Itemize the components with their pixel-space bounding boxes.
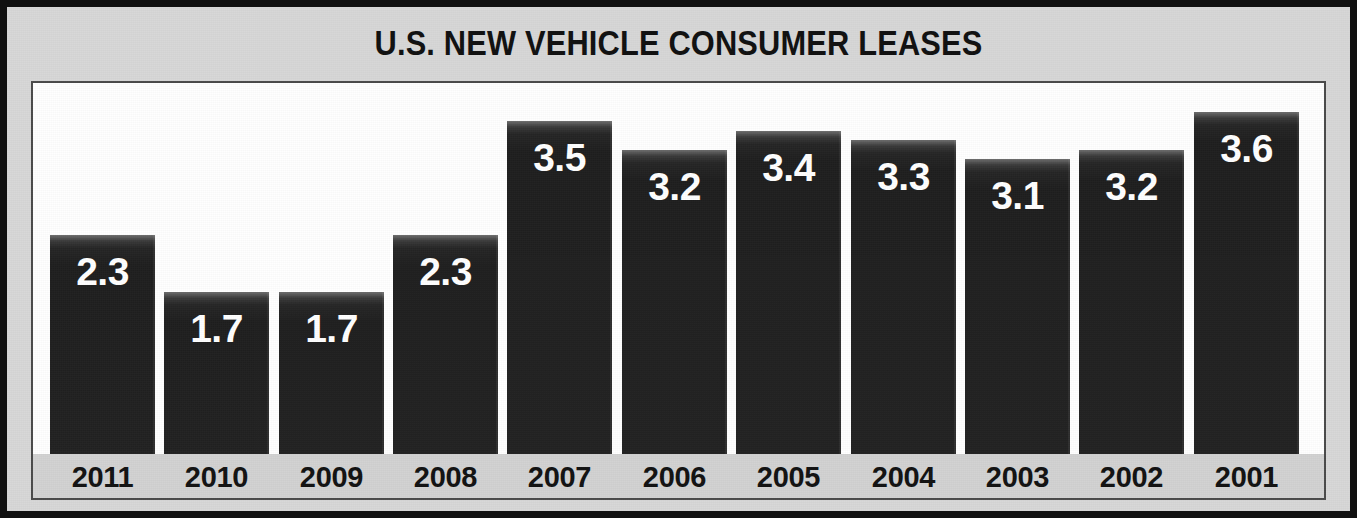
bar-value-label: 2.3	[393, 252, 498, 291]
year-label-2010: 2010	[164, 454, 269, 498]
bar-2007: 3.5	[507, 83, 612, 454]
bar-rect: 3.6	[1194, 112, 1299, 454]
category-axis-labels: 2011201020092008200720062005200420032002…	[50, 454, 1308, 498]
category-axis-strip: 2011201020092008200720062005200420032002…	[33, 454, 1324, 498]
bar-value-label: 3.4	[736, 148, 841, 187]
bar-value-label: 3.5	[507, 138, 612, 177]
bar-rect: 2.3	[50, 235, 155, 454]
bar-rect: 3.5	[507, 121, 612, 454]
bar-rect: 3.1	[965, 159, 1070, 454]
year-label-2008: 2008	[393, 454, 498, 498]
bar-rect: 2.3	[393, 235, 498, 454]
bar-2002: 3.2	[1079, 83, 1184, 454]
bar-value-label: 3.6	[1194, 129, 1299, 168]
year-label-2003: 2003	[965, 454, 1070, 498]
bar-value-label: 1.7	[279, 309, 384, 348]
bar-rect: 3.2	[1079, 150, 1184, 454]
plot-frame: 2.31.71.72.33.53.23.43.33.13.23.6 201120…	[31, 81, 1326, 500]
bar-2003: 3.1	[965, 83, 1070, 454]
bar-rect: 3.4	[736, 131, 841, 454]
bar-2005: 3.4	[736, 83, 841, 454]
bar-rect: 1.7	[279, 292, 384, 454]
year-label-2011: 2011	[50, 454, 155, 498]
year-label-2002: 2002	[1079, 454, 1184, 498]
bar-2004: 3.3	[851, 83, 956, 454]
chart-figure: U.S. NEW VEHICLE CONSUMER LEASES 2.31.71…	[0, 0, 1357, 518]
bar-value-label: 3.1	[965, 176, 1070, 215]
bar-2008: 2.3	[393, 83, 498, 454]
year-label-2001: 2001	[1194, 454, 1299, 498]
year-label-2007: 2007	[507, 454, 612, 498]
bar-2011: 2.3	[50, 83, 155, 454]
bar-value-label: 2.3	[50, 252, 155, 291]
bar-series: 2.31.71.72.33.53.23.43.33.13.23.6	[50, 83, 1308, 454]
year-label-2006: 2006	[622, 454, 727, 498]
bar-rect: 3.2	[622, 150, 727, 454]
year-label-2004: 2004	[851, 454, 956, 498]
bar-2006: 3.2	[622, 83, 727, 454]
bar-value-label: 3.2	[622, 167, 727, 206]
bar-value-label: 1.7	[164, 309, 269, 348]
bar-2010: 1.7	[164, 83, 269, 454]
bar-rect: 3.3	[851, 140, 956, 454]
plot-area: 2.31.71.72.33.53.23.43.33.13.23.6	[33, 83, 1324, 454]
bar-value-label: 3.2	[1079, 167, 1184, 206]
year-label-2009: 2009	[279, 454, 384, 498]
bar-2001: 3.6	[1194, 83, 1299, 454]
year-label-2005: 2005	[736, 454, 841, 498]
bar-value-label: 3.3	[851, 157, 956, 196]
bar-2009: 1.7	[279, 83, 384, 454]
chart-title: U.S. NEW VEHICLE CONSUMER LEASES	[88, 19, 1270, 67]
bar-rect: 1.7	[164, 292, 269, 454]
